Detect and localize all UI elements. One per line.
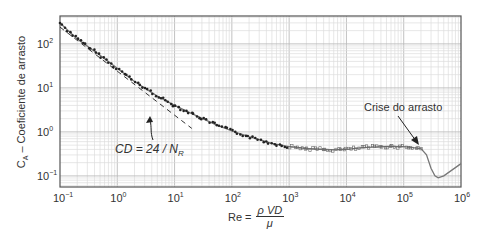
x-tick-label: 10−1 [53,191,73,204]
crise-arrow-head [411,136,419,145]
stokes-annotation: CD = 24 / NR [115,142,184,158]
y-axis-ticks: 10210110010−1 [37,37,57,182]
y-label-subscript: A [22,156,29,161]
x-tick-label: 104 [339,191,355,204]
x-tick-label: 102 [225,191,241,204]
y-label-symbol: C [15,160,27,168]
x-label-denominator: μ [267,217,273,229]
y-tick-label: 101 [37,81,53,94]
x-axis-label: Re = ρ VD μ [228,204,284,229]
data-markers [59,22,423,152]
y-tick-label: 10−1 [37,169,57,182]
x-tick-label: 105 [397,191,413,204]
x-tick-label: 101 [168,191,184,204]
stokes-subscript: R [178,149,184,158]
y-label-text: – Coeficiente de arrasto [15,36,27,156]
x-label-numerator: ρ VD [256,204,285,217]
drag-coefficient-chart: 10−1100101102103104105106 10210110010−1 [0,0,483,238]
stokes-label: CD = 24 / N [115,142,178,156]
x-label-prefix: Re = [228,211,252,223]
x-axis-ticks: 10−1100101102103104105106 [53,191,470,204]
x-tick-label: 103 [282,191,298,204]
x-tick-label: 100 [110,191,126,204]
crise-arrow [398,116,416,141]
y-tick-label: 102 [37,37,53,50]
drag-crisis-annotation: Crise do arrasto [364,101,442,113]
x-tick-label: 106 [454,191,470,204]
x-label-fraction: ρ VD μ [256,204,285,229]
y-tick-label: 100 [37,125,53,138]
y-axis-label: CA – Coeficiente de arrasto [15,36,29,168]
